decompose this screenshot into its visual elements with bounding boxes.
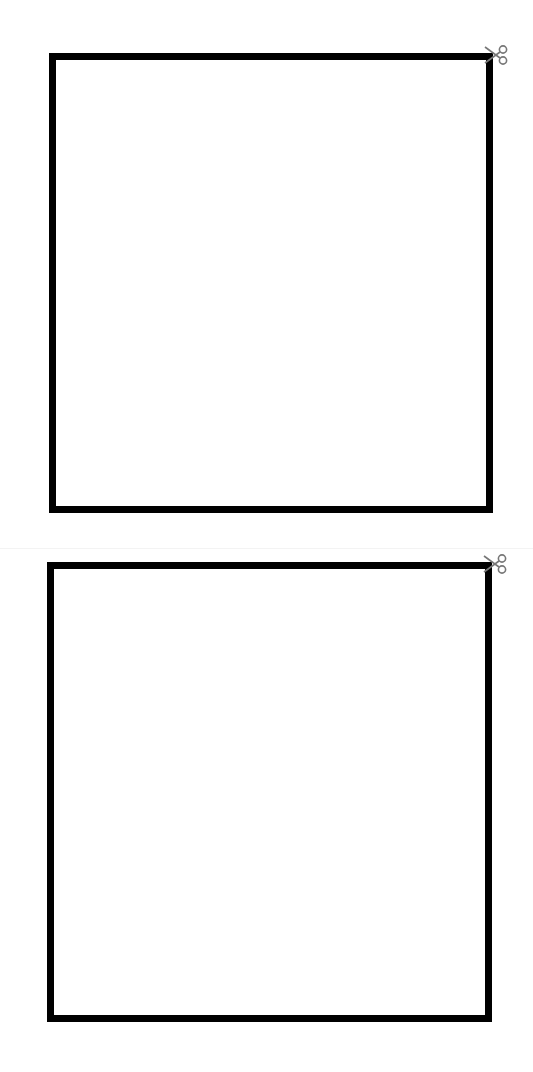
page-divider (0, 548, 533, 549)
scissors-icon (483, 43, 509, 67)
scissors-icon (482, 552, 508, 576)
cut-out-box-top (49, 53, 493, 513)
cut-out-box-bottom (47, 562, 492, 1022)
